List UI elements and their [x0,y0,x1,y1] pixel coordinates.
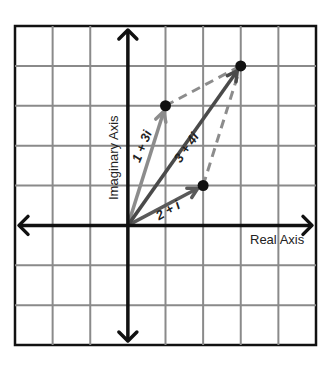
grid-lines [15,26,316,345]
vector-label-sum: 3 + 4i [171,129,202,165]
point-sum [235,60,246,71]
real-axis-label: Real Axis [250,232,305,247]
point-v1 [160,100,171,111]
point-v2 [198,180,209,191]
complex-plane-diagram: Real Axis Imaginary Axis 1 + 3i2 + i3 + … [0,0,333,365]
vector-label-v2: 2 + i [152,197,183,224]
imaginary-axis-label: Imaginary Axis [106,115,121,200]
